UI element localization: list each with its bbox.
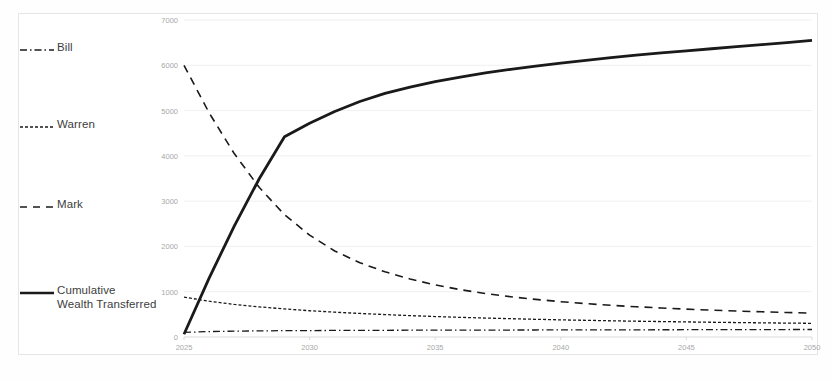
x-tick-label: 2025 [176, 343, 193, 352]
y-tick-label: 2000 [161, 242, 178, 251]
series-line-mark [184, 65, 812, 313]
y-tick-label: 5000 [161, 107, 178, 116]
x-tick-label: 2045 [678, 343, 695, 352]
chart-container: Bill Warren Mark Cum [0, 0, 832, 381]
series-line-cumulative-wealth-transferred [184, 40, 812, 334]
x-tick-label: 2035 [427, 343, 444, 352]
y-tick-label: 6000 [161, 61, 178, 70]
y-tick-label: 4000 [161, 152, 178, 161]
x-tick-label: 2050 [804, 343, 821, 352]
y-tick-label: 0 [174, 333, 178, 342]
y-tick-label: 7000 [161, 16, 178, 25]
series-line-bill [184, 329, 812, 332]
y-tick-label: 1000 [161, 288, 178, 297]
x-tick-label: 2030 [301, 343, 318, 352]
chart-plot-area: 0100020003000400050006000700020252030203… [0, 0, 832, 381]
x-tick-label: 2040 [552, 343, 569, 352]
y-tick-label: 3000 [161, 197, 178, 206]
